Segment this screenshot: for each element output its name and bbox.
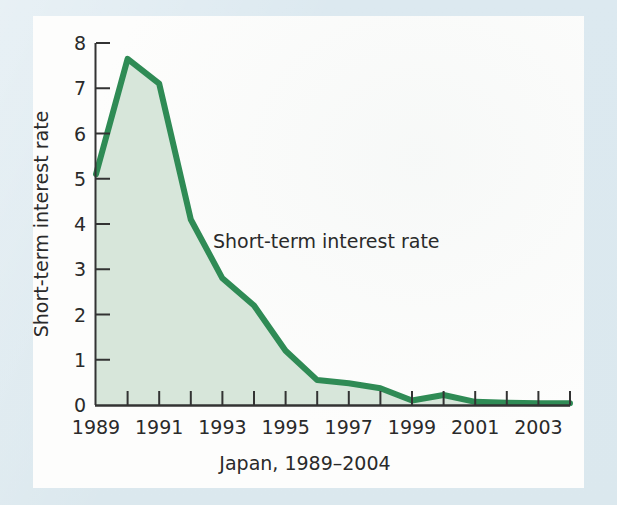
y-axis-tick-labels: 012345678 (74, 32, 86, 416)
x-axis-tick-labels: 19891991199319951997199920012003 (72, 416, 563, 438)
x-tick-label: 1993 (198, 416, 246, 438)
x-tick-label: 1999 (388, 416, 436, 438)
y-tick-label: 0 (74, 394, 86, 416)
x-tick-label: 1989 (72, 416, 120, 438)
y-tick-label: 8 (74, 32, 86, 54)
y-tick-label: 5 (74, 168, 86, 190)
y-tick-label: 7 (74, 77, 86, 99)
x-tick-label: 1997 (325, 416, 373, 438)
y-tick-label: 2 (74, 304, 86, 326)
y-tick-label: 4 (74, 213, 86, 235)
figure-frame: 012345678 198919911993199519971999200120… (0, 0, 617, 505)
y-tick-label: 1 (74, 349, 86, 371)
x-tick-label: 2003 (514, 416, 562, 438)
x-tick-label: 1991 (135, 416, 183, 438)
x-axis-title: Japan, 1989–2004 (218, 452, 390, 474)
chart-plot: 012345678 198919911993199519971999200120… (0, 0, 617, 505)
y-axis-title: Short-term interest rate (30, 111, 52, 338)
y-tick-label: 6 (74, 123, 86, 145)
y-tick-label: 3 (74, 258, 86, 280)
x-tick-label: 2001 (451, 416, 499, 438)
x-tick-label: 1995 (261, 416, 309, 438)
series-annotation-label: Short-term interest rate (213, 230, 440, 252)
